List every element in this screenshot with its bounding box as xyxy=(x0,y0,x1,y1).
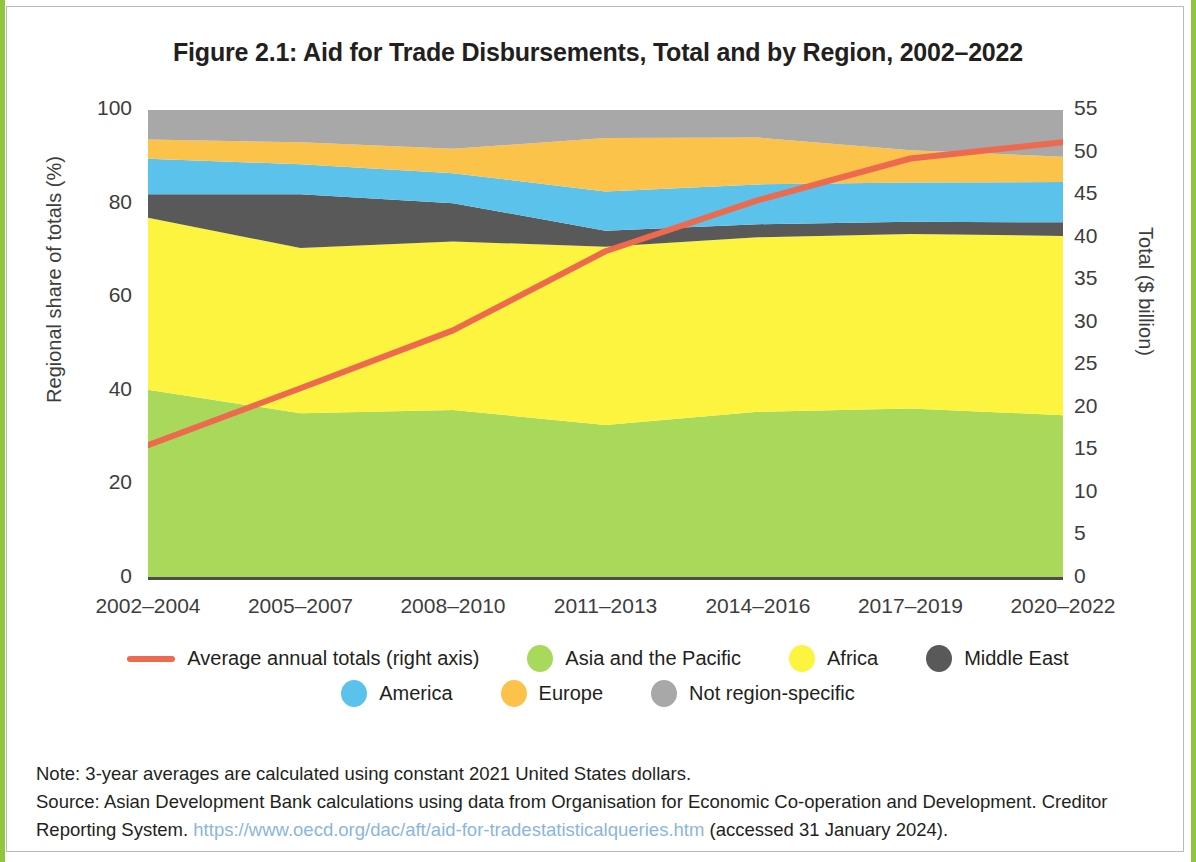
right-axis-tick-50: 50 xyxy=(1074,139,1134,163)
source-text-line-2: Reporting System. https://www.oecd.org/d… xyxy=(36,816,1166,844)
chart-legend: Average annual totals (right axis)Asia a… xyxy=(0,645,1196,715)
page-accent-right xyxy=(1191,0,1196,862)
legend-label: Middle East xyxy=(964,647,1069,670)
legend-africa[interactable]: Africa xyxy=(789,645,878,672)
left-axis-tick-40: 40 xyxy=(62,377,132,401)
right-axis-tick-20: 20 xyxy=(1074,394,1134,418)
stacked-area-svg xyxy=(148,110,1063,578)
legend-dot-swatch-icon xyxy=(651,680,677,707)
legend-average-annual-totals[interactable]: Average annual totals (right axis) xyxy=(127,647,479,670)
right-axis-tick-0: 0 xyxy=(1074,564,1134,588)
legend-europe[interactable]: Europe xyxy=(501,680,604,707)
note-text: Note: 3-year averages are calculated usi… xyxy=(36,760,1166,788)
right-axis-tick-55: 55 xyxy=(1074,96,1134,120)
source-prefix: Reporting System. xyxy=(36,819,193,840)
source-url-link[interactable]: https://www.oecd.org/dac/aft/aid-for-tra… xyxy=(193,819,704,840)
legend-middle-east[interactable]: Middle East xyxy=(926,645,1069,672)
right-axis-tick-15: 15 xyxy=(1074,436,1134,460)
figure-title: Figure 2.1: Aid for Trade Disbursements,… xyxy=(0,38,1196,67)
right-axis-title: Total ($ billion) xyxy=(1134,172,1157,412)
chart-plot-area xyxy=(148,110,1063,578)
right-axis-tick-10: 10 xyxy=(1074,479,1134,503)
right-axis-tick-5: 5 xyxy=(1074,521,1134,545)
right-axis-tick-45: 45 xyxy=(1074,181,1134,205)
x-axis-tick-2: 2008–2010 xyxy=(368,594,538,618)
x-axis-tick-3: 2011–2013 xyxy=(521,594,691,618)
left-axis-tick-20: 20 xyxy=(62,470,132,494)
legend-label: Africa xyxy=(827,647,878,670)
legend-label: Average annual totals (right axis) xyxy=(187,647,479,670)
right-axis-tick-35: 35 xyxy=(1074,266,1134,290)
x-axis-line xyxy=(148,577,1063,580)
left-axis-tick-80: 80 xyxy=(62,190,132,214)
right-axis-tick-25: 25 xyxy=(1074,351,1134,375)
legend-dot-swatch-icon xyxy=(926,645,952,672)
figure-notes: Note: 3-year averages are calculated usi… xyxy=(36,760,1166,844)
legend-label: Not region-specific xyxy=(689,682,855,705)
legend-line-swatch-icon xyxy=(127,656,175,662)
legend-dot-swatch-icon xyxy=(341,680,367,707)
x-axis-tick-6: 2020–2022 xyxy=(978,594,1148,618)
right-axis-tick-30: 30 xyxy=(1074,309,1134,333)
legend-label: America xyxy=(379,682,452,705)
source-text-line-1: Source: Asian Development Bank calculati… xyxy=(36,788,1166,816)
legend-label: Asia and the Pacific xyxy=(565,647,741,670)
left-axis-tick-0: 0 xyxy=(62,564,132,588)
x-axis-tick-5: 2017–2019 xyxy=(826,594,996,618)
right-axis-tick-40: 40 xyxy=(1074,224,1134,248)
legend-row-0: Average annual totals (right axis)Asia a… xyxy=(0,645,1196,672)
legend-row-1: AmericaEuropeNot region-specific xyxy=(0,680,1196,707)
source-suffix: (accessed 31 January 2024). xyxy=(704,819,948,840)
page-accent-left xyxy=(0,0,5,862)
left-axis-tick-60: 60 xyxy=(62,283,132,307)
legend-dot-swatch-icon xyxy=(789,645,815,672)
legend-america[interactable]: America xyxy=(341,680,452,707)
legend-asia-and-the-pacific[interactable]: Asia and the Pacific xyxy=(527,645,741,672)
x-axis-tick-0: 2002–2004 xyxy=(63,594,233,618)
legend-label: Europe xyxy=(539,682,604,705)
x-axis-tick-4: 2014–2016 xyxy=(673,594,843,618)
legend-dot-swatch-icon xyxy=(501,680,527,707)
left-axis-tick-100: 100 xyxy=(62,96,132,120)
legend-not-region-specific[interactable]: Not region-specific xyxy=(651,680,855,707)
x-axis-tick-1: 2005–2007 xyxy=(216,594,386,618)
legend-dot-swatch-icon xyxy=(527,645,553,672)
